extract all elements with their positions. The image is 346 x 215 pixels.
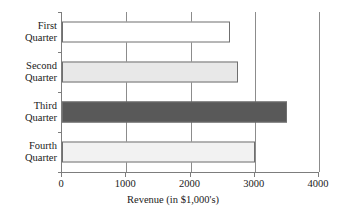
y-axis-label-line: Second (1, 60, 57, 72)
y-axis-tick (58, 132, 62, 133)
bar-row (62, 52, 318, 92)
x-axis-tick-label-2000: 2000 (168, 178, 212, 190)
x-axis-tick-label-3000: 3000 (232, 178, 276, 190)
y-axis-label-line: Quarter (1, 112, 57, 124)
x-axis-tick-2000 (190, 172, 191, 177)
y-axis-label-line: Quarter (1, 152, 57, 164)
x-axis-tick-4000 (318, 172, 319, 177)
x-axis-tick-label-4000: 4000 (296, 178, 340, 190)
y-axis-label-fourth-quarter: FourthQuarter (1, 140, 57, 163)
plot-area (61, 12, 318, 172)
y-axis-label-line: Quarter (1, 32, 57, 44)
y-axis-label-first-quarter: FirstQuarter (1, 20, 57, 43)
y-axis-tick (58, 12, 62, 13)
x-axis-tick-label-0: 0 (39, 178, 83, 190)
x-axis-title: Revenue (in $1,000's) (0, 194, 346, 205)
bar-chart: FirstQuarterSecondQuarterThirdQuarterFou… (0, 0, 346, 215)
bar-row (62, 92, 318, 132)
y-axis-tick (58, 52, 62, 53)
y-axis-tick (58, 92, 62, 93)
bar (62, 22, 230, 43)
y-axis-label-line: Fourth (1, 140, 57, 152)
y-axis-label-line: Third (1, 100, 57, 112)
x-axis-tick-1000 (125, 172, 126, 177)
bar (62, 142, 255, 163)
y-axis-label-line: Quarter (1, 72, 57, 84)
bar (62, 62, 238, 83)
x-axis-tick-0 (61, 172, 62, 177)
y-axis-label-line: First (1, 20, 57, 32)
x-axis-tick-label-1000: 1000 (103, 178, 147, 190)
y-axis-category-labels: FirstQuarterSecondQuarterThirdQuarterFou… (0, 12, 57, 172)
bar (62, 102, 287, 123)
gridline-4000 (319, 12, 320, 172)
y-axis-label-third-quarter: ThirdQuarter (1, 100, 57, 123)
bar-row (62, 132, 318, 172)
bar-row (62, 12, 318, 52)
x-axis-tick-3000 (254, 172, 255, 177)
y-axis-label-second-quarter: SecondQuarter (1, 60, 57, 83)
